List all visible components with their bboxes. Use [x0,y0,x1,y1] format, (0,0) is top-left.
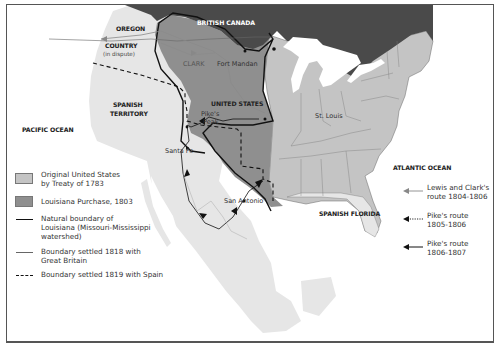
legend-swatch-original-us [15,173,33,184]
label-san-antonio: San Antonio [224,198,263,205]
label-spanish-florida: SPANISH FLORIDA [319,211,380,218]
label-atlantic-ocean: ATLANTIC OCEAN [393,165,451,172]
route-legend-pike-1806: Pike's route 1806-1807 [427,239,469,257]
gray-arrow-icon [403,188,409,194]
label-fort-mandan: Fort Mandan [217,61,258,68]
label-country: COUNTRY [105,43,137,50]
label-territory: TERRITORY [110,111,148,118]
st-louis-marker [264,118,267,121]
legend-swatch-louisiana [15,196,33,207]
route-legend-pike-1805: Pike's route 1805-1806 [427,211,469,229]
legend-item-natural-boundary: Natural boundary of Louisiana (Missouri-… [41,214,151,241]
black-arrow-icon [403,244,409,250]
label-pacific-ocean: PACIFIC OCEAN [22,127,74,134]
label-peak: Peak [203,119,218,126]
legend-line-1818 [16,252,33,253]
route-legend-arrows [401,181,425,261]
route-legend-lewis-clark: Lewis and Clark's route 1804-1806 [427,183,489,201]
legend-item-louisiana: Louisiana Purchase, 1803 [41,197,133,206]
label-oregon: OREGON [116,26,145,33]
label-united-states: UNITED STATES [211,101,263,108]
label-in-dispute: (in dispute) [103,52,135,58]
legend-item-1819: Boundary settled 1819 with Spain [41,270,163,279]
legend-line-1819 [16,275,33,276]
label-santa-fe: Santa Fe [165,148,193,155]
label-clark: CLARK [183,61,205,68]
pikes-peak-marker [186,126,189,129]
label-pikes: Pike's [201,111,219,118]
label-spanish: SPANISH [113,102,143,109]
fort-mandan-marker [244,50,247,53]
dotted-arrow-icon [403,216,409,222]
legend-line-natural-boundary [16,219,33,220]
yucatan [301,277,336,316]
legend-item-1818: Boundary settled 1818 with Great Britain [41,247,141,265]
legend-item-original-us: Original United States by Treaty of 1783 [41,170,120,188]
label-st-louis: St. Louis [315,113,343,120]
map-frame: BRITISH CANADA OREGON COUNTRY (in disput… [6,4,494,343]
label-british-canada: BRITISH CANADA [197,20,255,27]
